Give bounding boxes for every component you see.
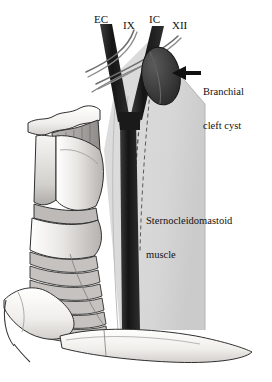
label-external-carotid: EC: [94, 14, 108, 26]
label-internal-carotid: IC: [149, 14, 160, 26]
first-rib: [14, 344, 30, 362]
illustration-canvas: [0, 0, 272, 382]
manubrium: [60, 329, 252, 362]
cricoid-cartilage: [30, 218, 101, 259]
anatomical-figure: EC IX IC XII Branchial cleft cyst Sterno…: [0, 0, 272, 382]
annotation-cyst-line2: cleft cyst: [203, 120, 244, 131]
label-glossopharyngeal-nerve: IX: [123, 20, 135, 32]
thyroid-cartilage: [34, 135, 103, 210]
carotid-bifurcation: [118, 112, 140, 130]
annotation-branchial-cleft-cyst: Branchial cleft cyst: [203, 63, 244, 154]
annotation-muscle-line1: Sternocleidomastoid: [146, 215, 232, 226]
annotation-muscle-line2: muscle: [146, 249, 232, 260]
label-hypoglossal-nerve: XII: [172, 20, 187, 32]
annotation-cyst-line1: Branchial: [203, 86, 244, 97]
annotation-sternocleidomastoid-muscle: Sternocleidomastoid muscle: [146, 192, 232, 283]
